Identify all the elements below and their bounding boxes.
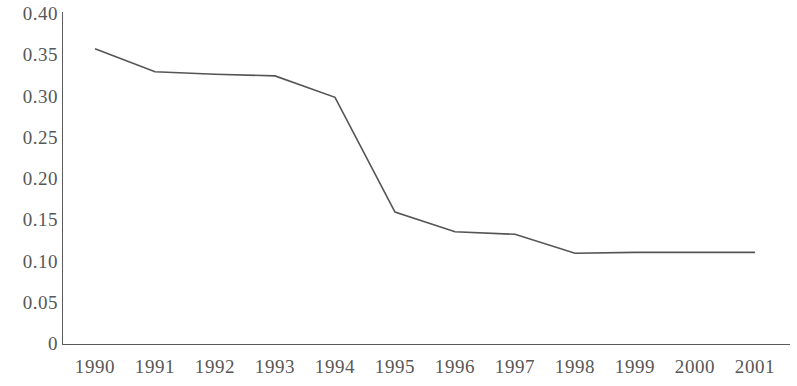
- x-axis-tick-label: 1992: [185, 355, 245, 379]
- x-axis-tick-label: 1994: [305, 355, 365, 379]
- data-series-line: [95, 49, 755, 254]
- x-axis-tick-label: 1990: [65, 355, 125, 379]
- x-axis-tick-label: 1993: [245, 355, 305, 379]
- plot-area: [0, 0, 797, 386]
- x-axis-tick-label: 1991: [125, 355, 185, 379]
- x-axis-tick-label: 1996: [425, 355, 485, 379]
- x-axis-tick-label: 2001: [725, 355, 785, 379]
- x-axis-tick-label: 1998: [545, 355, 605, 379]
- x-axis-tick-label: 1995: [365, 355, 425, 379]
- x-axis-tick-label: 1999: [605, 355, 665, 379]
- x-axis-tick-labels: 1990199119921993199419951996199719981999…: [0, 355, 797, 385]
- x-axis-tick-label: 2000: [665, 355, 725, 379]
- x-axis-tick-label: 1997: [485, 355, 545, 379]
- line-chart: 0.400.350.300.250.200.150.100.050 199019…: [0, 0, 797, 386]
